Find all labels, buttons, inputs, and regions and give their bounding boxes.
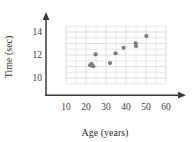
y-tick-label: 12 [33,50,43,60]
x-tick-label: 40 [121,102,131,112]
chart-canvas: 102030405060 101214 Age (years) Time (se… [0,0,196,142]
x-tick-label: 60 [161,102,171,112]
data-point-marker [122,46,126,50]
y-axis-ticks: 101214 [33,27,43,83]
x-tick-label: 20 [81,102,91,112]
y-tick-label: 10 [33,73,43,83]
x-axis-label: Age (years) [82,127,129,139]
scatter-chart: 102030405060 101214 Age (years) Time (se… [0,0,196,142]
x-axis-arrowhead [178,92,186,99]
x-tick-label: 10 [61,102,71,112]
data-point-marker [114,51,118,55]
y-axis-label: Time (sec) [3,36,15,79]
x-tick-label: 30 [101,102,111,112]
x-tick-label: 50 [141,102,151,112]
y-axis-arrowhead [43,12,50,20]
data-point-marker [91,64,95,68]
data-point-marker [144,34,148,38]
data-point-marker [134,44,138,48]
data-point-marker [94,52,98,56]
y-tick-label: 14 [33,27,43,37]
x-axis-ticks: 102030405060 [61,102,171,112]
data-points [88,34,149,68]
data-point-marker [108,61,112,65]
